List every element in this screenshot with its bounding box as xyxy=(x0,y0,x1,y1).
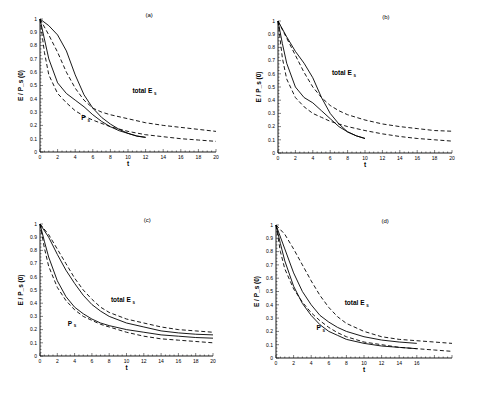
x-axis-title: t xyxy=(127,160,130,167)
x-tick-label: 2 xyxy=(294,155,297,161)
x-tick-label: 14 xyxy=(397,155,403,161)
y-tick-label: 0.5 xyxy=(30,82,37,88)
y-tick-label: 0.5 xyxy=(268,84,275,90)
x-tick-label: 18 xyxy=(193,358,199,364)
solid-curve xyxy=(40,224,213,335)
y-tick-label: 0.1 xyxy=(268,137,275,143)
x-tick-label: 8 xyxy=(346,155,349,161)
x-tick-label: 12 xyxy=(379,360,385,366)
y-axis-title: E / P_s (0) xyxy=(255,71,263,102)
y-tick-label: 0 xyxy=(34,149,37,155)
y-tick-label: 0.1 xyxy=(30,136,37,142)
x-tick-label: 10 xyxy=(362,155,368,161)
x-tick-label: 8 xyxy=(109,154,112,160)
annotation-subscript: s xyxy=(154,91,157,96)
y-tick-label: 0.3 xyxy=(30,109,37,115)
curve-annotation: P s xyxy=(316,324,325,333)
y-tick-label: 0.4 xyxy=(30,96,37,102)
x-tick-label: 16 xyxy=(414,360,420,366)
x-tick-label: 10 xyxy=(125,154,131,160)
y-tick-label: 0.1 xyxy=(266,342,273,348)
curve-annotation: total E s xyxy=(345,299,370,308)
x-tick-label: 0 xyxy=(275,360,278,366)
dashed-curve xyxy=(40,224,213,332)
dashed-curve xyxy=(40,19,216,131)
x-axis-title: t xyxy=(125,364,128,371)
y-tick-label: 0.8 xyxy=(30,247,37,253)
y-tick-label: 0.9 xyxy=(266,235,273,241)
x-axis-title: t xyxy=(363,366,366,373)
y-tick-label: 0.5 xyxy=(30,287,37,293)
x-tick-label: 20 xyxy=(449,155,455,161)
y-tick-label: 0.3 xyxy=(266,315,273,321)
solid-curve xyxy=(40,19,146,137)
x-tick-label: 2 xyxy=(56,358,59,364)
y-tick-label: 0 xyxy=(272,150,275,156)
x-tick-label: 10 xyxy=(361,360,367,366)
y-tick-label: 1 xyxy=(270,222,273,228)
annotation-subscript: s xyxy=(366,303,369,308)
y-tick-label: 1 xyxy=(34,16,37,22)
y-tick-label: 1 xyxy=(272,18,275,24)
dashed-curve xyxy=(40,19,216,141)
y-tick-label: 0.7 xyxy=(30,56,37,62)
y-axis-title: E / P_s (0) xyxy=(253,276,261,307)
panel-a: 0246810121416182000.10.20.30.40.50.60.70… xyxy=(17,12,219,167)
y-tick-label: 0.2 xyxy=(30,122,37,128)
dashed-curve xyxy=(276,225,452,343)
y-tick-label: 0.6 xyxy=(30,69,37,75)
y-tick-label: 1 xyxy=(34,221,37,227)
figure-canvas: 0246810121416182000.10.20.30.40.50.60.70… xyxy=(0,0,477,398)
x-tick-label: 8 xyxy=(108,358,111,364)
y-tick-label: 0.7 xyxy=(30,260,37,266)
y-tick-label: 0 xyxy=(34,353,37,359)
y-tick-label: 0.9 xyxy=(30,29,37,35)
solid-curve xyxy=(278,21,365,138)
y-tick-label: 0.7 xyxy=(268,57,275,63)
x-tick-label: 20 xyxy=(213,154,219,160)
panel-c: 0246810121416182000.10.20.30.40.50.60.70… xyxy=(17,217,216,371)
x-tick-label: 12 xyxy=(143,154,149,160)
curve-annotation: total E s xyxy=(332,69,357,78)
curve-annotation: total E s xyxy=(111,296,136,305)
x-tick-label: 6 xyxy=(91,154,94,160)
x-tick-label: 20 xyxy=(210,358,216,364)
x-axis-title: t xyxy=(364,161,367,168)
y-tick-label: 0.6 xyxy=(266,275,273,281)
y-tick-label: 0.4 xyxy=(266,302,273,308)
x-tick-label: 0 xyxy=(39,358,42,364)
x-tick-label: 4 xyxy=(311,155,314,161)
x-tick-label: 2 xyxy=(56,154,59,160)
annotation-subscript: s xyxy=(354,73,357,78)
y-tick-label: 0.4 xyxy=(268,97,275,103)
dashed-curve xyxy=(40,224,213,343)
y-tick-label: 0.9 xyxy=(30,234,37,240)
y-tick-label: 0.3 xyxy=(30,313,37,319)
y-tick-label: 0.8 xyxy=(266,248,273,254)
y-tick-label: 0.2 xyxy=(30,326,37,332)
y-axis-title: E / P_s (0) xyxy=(17,274,25,305)
solid-curve xyxy=(40,224,213,338)
panel-label: (c) xyxy=(144,217,151,223)
dashed-curve xyxy=(278,21,452,131)
y-tick-label: 0.5 xyxy=(266,288,273,294)
curve-annotation: P s xyxy=(68,320,77,329)
solid-curve xyxy=(276,225,417,343)
annotation-subscript: s xyxy=(133,300,136,305)
solid-curve xyxy=(276,225,417,349)
y-tick-label: 0.6 xyxy=(30,274,37,280)
x-tick-label: 16 xyxy=(176,358,182,364)
annotation-subscript: s xyxy=(74,323,77,328)
x-tick-label: 4 xyxy=(74,154,77,160)
y-tick-label: 0.7 xyxy=(266,262,273,268)
solid-curve xyxy=(278,21,365,138)
x-tick-label: 14 xyxy=(158,358,164,364)
panel-label: (b) xyxy=(382,14,389,20)
x-tick-label: 18 xyxy=(196,154,202,160)
y-tick-label: 0.9 xyxy=(268,31,275,37)
x-tick-label: 2 xyxy=(292,360,295,366)
y-tick-label: 0 xyxy=(270,355,273,361)
x-tick-label: 12 xyxy=(141,358,147,364)
x-tick-label: 18 xyxy=(432,155,438,161)
y-tick-label: 0.6 xyxy=(268,71,275,77)
